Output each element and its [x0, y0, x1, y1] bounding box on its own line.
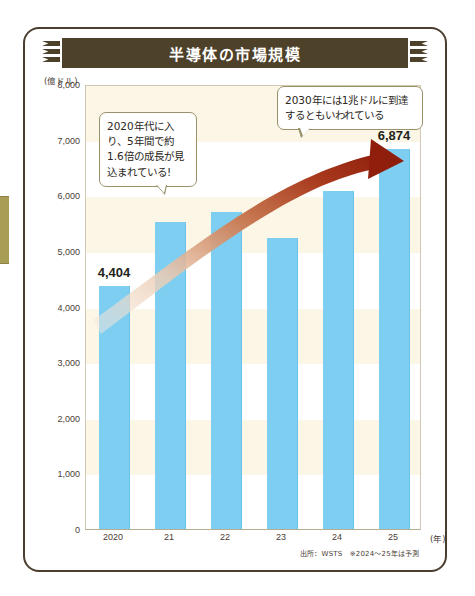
x-axis-tick-label-25: 25 — [388, 532, 398, 542]
annotation-growth-note: 2020年代に入り、5年間で約1.6倍の成長が見込まれている! — [99, 112, 197, 187]
y-axis-tick-label: 1,000 — [57, 469, 80, 479]
y-axis-tick-label: 4,000 — [57, 303, 80, 313]
annotation-forecast-note: 2030年には1兆ドルに到達するともいわれている — [277, 86, 423, 130]
source-note: 出所：WSTS ※2024〜25年は予測 — [300, 548, 420, 558]
page-title: 半導体の市場規模 — [169, 43, 301, 64]
y-axis-tick-label: 3,000 — [57, 358, 80, 368]
y-axis-tick-label: 5,000 — [57, 247, 80, 257]
y-axis-tick-label: 0 — [75, 525, 80, 535]
annotation-forecast-tail-inner — [300, 128, 310, 136]
background-band — [86, 309, 420, 365]
ribbon-left-icon — [42, 40, 60, 66]
y-axis-tick-label: 6,000 — [57, 191, 80, 201]
y-axis-tick-label: 7,000 — [57, 136, 80, 146]
bar-2020 — [99, 286, 130, 530]
y-axis-labels: 8,0007,0006,0005,0004,0003,0002,0001,000… — [40, 74, 85, 541]
y-axis-tick-label: 2,000 — [57, 414, 80, 424]
x-axis-tick-label-24: 24 — [332, 532, 342, 542]
bar-25 — [379, 149, 410, 530]
x-axis-tick-label-2020: 2020 — [103, 532, 123, 542]
bar-21 — [155, 222, 186, 530]
y-axis-tick-label: 8,000 — [57, 80, 80, 90]
annotation-growth-tail-inner — [157, 185, 166, 193]
background-band — [86, 197, 420, 253]
x-axis-tick-label-23: 23 — [276, 532, 286, 542]
bar-23 — [267, 238, 298, 530]
x-axis-tick-label-22: 22 — [220, 532, 230, 542]
banner-bar: 半導体の市場規模 — [62, 38, 408, 68]
annotation-growth-text: 2020年代に入り、5年間で約1.6倍の成長が見込まれている! — [107, 120, 184, 178]
annotation-forecast-text: 2030年には1兆ドルに到達するともいわれている — [285, 94, 408, 121]
background-band — [86, 420, 420, 476]
bar-value-label-2020: 4,404 — [98, 265, 131, 280]
x-axis-unit-label: (年) — [430, 532, 446, 544]
x-axis-tick-label-21: 21 — [164, 532, 174, 542]
page-edge-tab — [0, 196, 9, 264]
bar-24 — [323, 191, 354, 530]
title-banner: 半導体の市場規模 — [40, 38, 430, 68]
ribbon-right-icon — [410, 40, 428, 66]
bar-22 — [211, 212, 242, 530]
